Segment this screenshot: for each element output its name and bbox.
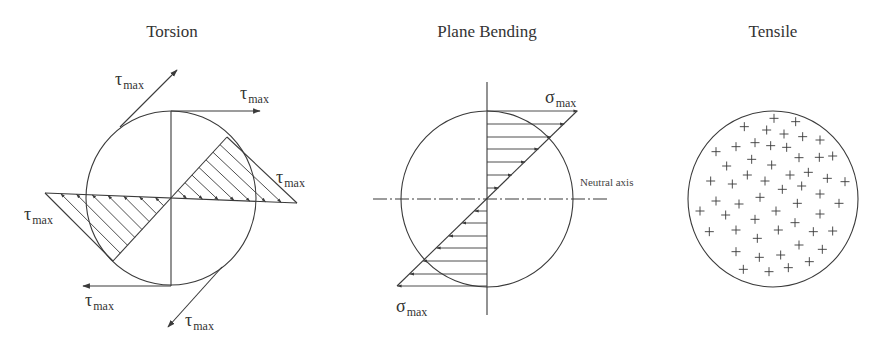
plus-marker [722, 162, 731, 171]
stress-distribution-figure: Torsion τmaxτmaxτmaxτmaxτmaxτmax Plane B… [0, 0, 881, 342]
plus-marker [816, 190, 825, 199]
plus-marker [776, 251, 785, 260]
plus-marker [732, 226, 741, 235]
plus-marker [809, 227, 818, 236]
plus-marker [712, 147, 721, 156]
neutral-axis-label: Neutral axis [580, 176, 633, 188]
plus-marker [705, 227, 714, 236]
plus-marker [828, 227, 837, 236]
plus-marker [747, 155, 756, 164]
max-stress-label: τmax [276, 167, 305, 190]
plus-marker [756, 193, 765, 202]
plus-marker [743, 171, 752, 180]
plus-marker [795, 153, 804, 162]
max-stress-label: τmax [240, 83, 269, 106]
plus-marker [696, 207, 705, 216]
plus-marker [772, 207, 781, 216]
plus-marker [778, 185, 787, 194]
plus-marker [762, 126, 771, 135]
plus-marker [728, 180, 737, 189]
plus-marker [816, 136, 825, 145]
plus-marker [784, 263, 793, 272]
plus-marker [739, 265, 748, 274]
plus-marker [751, 138, 760, 147]
plus-marker [732, 247, 741, 256]
plus-marker [818, 245, 827, 254]
plus-marker [732, 142, 741, 151]
plus-marker [793, 199, 802, 208]
plus-marker [721, 211, 730, 220]
max-stress-label: σmax [396, 296, 427, 319]
plus-marker [774, 226, 783, 235]
max-stress-label: σmax [545, 87, 576, 110]
plus-marker [753, 234, 762, 243]
plus-marker [798, 132, 807, 141]
plus-marker [751, 215, 760, 224]
tensile-cross-section-circle [688, 111, 858, 287]
plus-marker [816, 210, 825, 219]
plus-marker [805, 257, 814, 266]
max-stress-label: τmax [185, 310, 214, 333]
plus-marker [841, 177, 850, 186]
tensile-stress-markers [696, 114, 850, 276]
torsion-panel: Torsion τmaxτmaxτmaxτmaxτmaxτmax [24, 22, 305, 333]
plus-marker [795, 241, 804, 250]
plus-marker [712, 197, 721, 206]
plus-marker [780, 130, 789, 139]
plus-marker [766, 141, 775, 150]
plus-marker [823, 174, 832, 183]
plus-marker [767, 161, 776, 170]
max-stress-label: τmax [85, 290, 114, 313]
plus-marker [791, 218, 800, 227]
tensile-panel: Tensile [688, 22, 858, 287]
plus-marker [791, 117, 800, 126]
plus-marker [804, 168, 813, 177]
torsion-title: Torsion [146, 22, 198, 41]
plus-marker [735, 200, 744, 209]
plus-marker [706, 177, 715, 186]
plane-bending-panel: Plane Bending Neutral axis σmaxσmax [373, 22, 633, 319]
max-stress-label: τmax [24, 204, 53, 227]
tensile-title: Tensile [749, 22, 798, 41]
plus-marker [740, 122, 749, 131]
plus-marker [755, 253, 764, 262]
plus-marker [782, 143, 791, 152]
plane-bending-title: Plane Bending [437, 22, 537, 41]
plus-marker [815, 153, 824, 162]
plus-marker [797, 182, 806, 191]
plus-marker [770, 114, 779, 123]
plus-marker [761, 177, 770, 186]
plus-marker [828, 152, 837, 161]
plus-marker [765, 267, 774, 276]
torsion-arrow-lower-right [168, 267, 222, 327]
plus-marker [786, 171, 795, 180]
max-stress-label: τmax [115, 69, 144, 92]
plus-marker [835, 199, 844, 208]
